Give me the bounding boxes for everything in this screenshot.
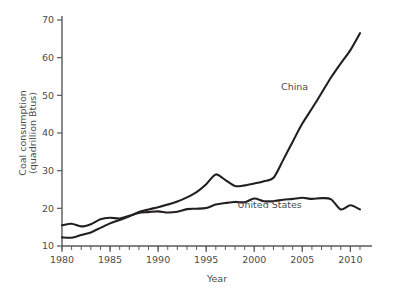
x-tick-label-1980: 1980 (50, 254, 74, 265)
y-axis-title-line-2: (quadrillion Btus) (27, 92, 38, 174)
x-tick-label-2000: 2000 (242, 254, 266, 265)
y-tick-label-20: 20 (42, 203, 54, 214)
coal-consumption-line-chart: 10203040506070 1980198519901995200020052… (0, 0, 396, 289)
y-tick-label-50: 50 (42, 90, 54, 101)
x-tick-label-2010: 2010 (338, 254, 362, 265)
series-label-china: China (281, 81, 308, 92)
x-tick-label-1985: 1985 (98, 254, 122, 265)
x-axis-title: Year (206, 273, 227, 284)
y-tick-label-10: 10 (42, 240, 54, 251)
series-label-united-states: United States (237, 199, 301, 210)
x-tick-label-2005: 2005 (290, 254, 314, 265)
y-tick-label-30: 30 (42, 165, 54, 176)
x-tick-label-1995: 1995 (194, 254, 218, 265)
y-tick-label-40: 40 (42, 127, 54, 138)
x-tick-label-1990: 1990 (146, 254, 170, 265)
y-tick-label-70: 70 (42, 14, 54, 25)
y-tick-label-60: 60 (42, 52, 54, 63)
